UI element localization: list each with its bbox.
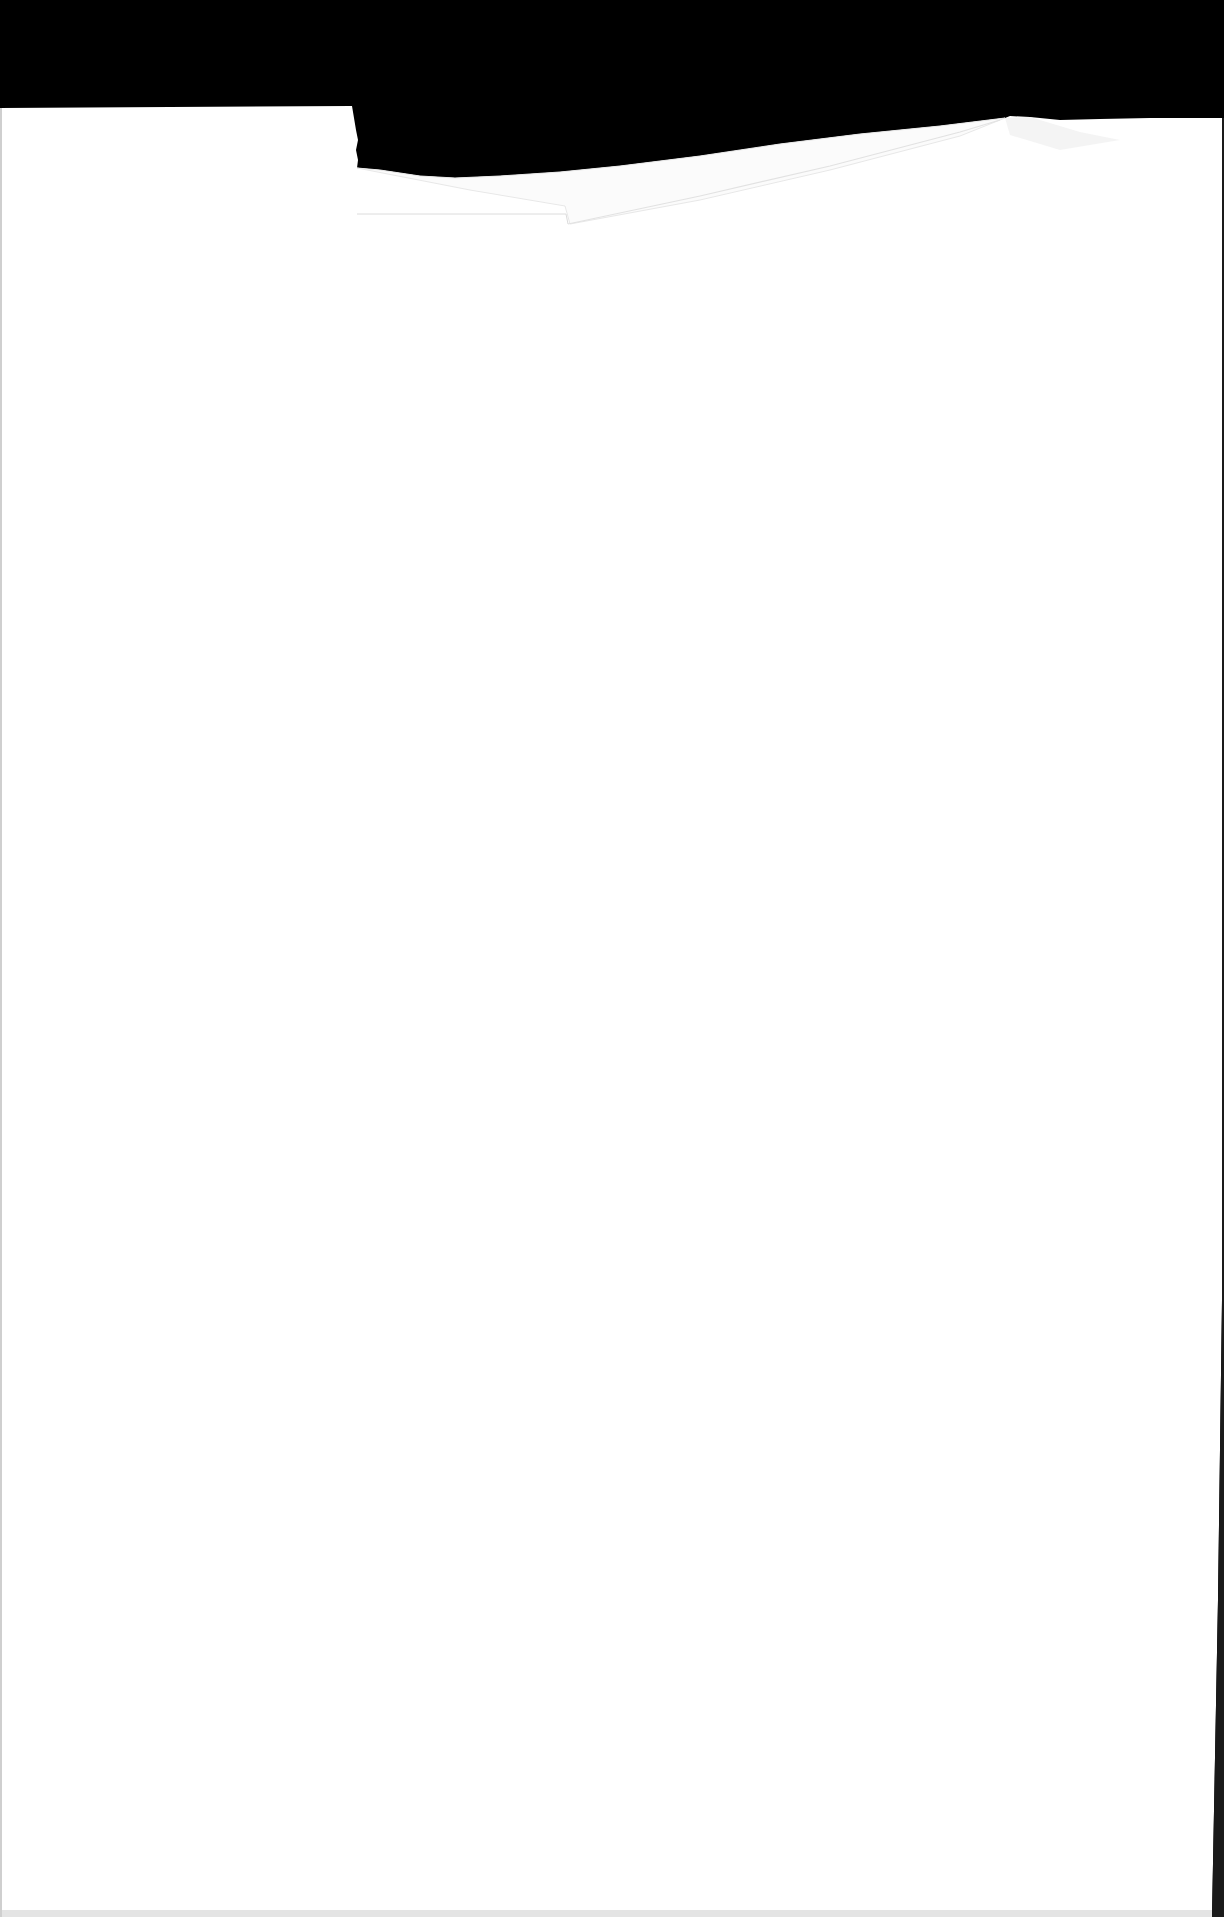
scanned-page-canvas: blank — [0, 0, 1224, 1917]
bottom-edge-band — [0, 1910, 1212, 1917]
scanned-paper-sheet — [0, 0, 1224, 1917]
paper-sheet — [0, 106, 1222, 1917]
left-edge-line — [0, 108, 2, 1917]
